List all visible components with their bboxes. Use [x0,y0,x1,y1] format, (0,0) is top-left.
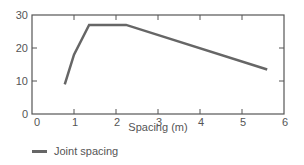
x-tick-label: 6 [282,116,288,128]
joint-spacing-line [65,25,267,84]
line-chart: 01234560102030 Spacing (m) [0,0,304,140]
x-axis-label: Spacing (m) [128,121,187,133]
x-tick-label: 2 [114,116,120,128]
x-tick-label: 1 [72,116,78,128]
x-tick-label: 0 [34,116,40,128]
legend-label: Joint spacing [54,145,118,157]
data-series [65,25,267,84]
y-tick-label: 10 [16,75,28,87]
y-tick-label: 30 [16,9,28,21]
axis-ticks: 01234560102030 [16,9,288,128]
legend-line-icon [32,150,47,153]
x-tick-label: 4 [198,116,204,128]
y-tick-label: 20 [16,42,28,54]
x-tick-label: 5 [240,116,246,128]
legend: Joint spacing [32,145,118,157]
y-tick-label: 0 [22,108,28,120]
